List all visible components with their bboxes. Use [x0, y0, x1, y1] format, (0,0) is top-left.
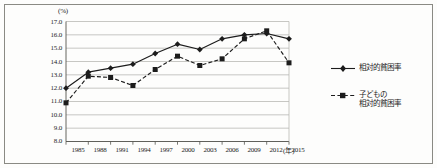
- data-point-marker: [86, 74, 91, 79]
- data-point-marker: [175, 41, 181, 47]
- data-point-marker: [219, 36, 225, 42]
- data-point-marker: [108, 75, 113, 80]
- data-point-marker: [197, 63, 202, 68]
- data-point-marker: [64, 100, 69, 105]
- data-point-marker: [242, 36, 247, 41]
- data-point-marker: [130, 83, 135, 88]
- legend-entry-relative-poverty-rate: 相対的貧困率: [330, 63, 401, 73]
- legend-marker-diamond-solid-icon: [330, 64, 356, 73]
- legend-label-2-line2: 相対的貧困率: [359, 99, 401, 108]
- x-tick-marks: [66, 142, 289, 145]
- data-point-marker: [264, 28, 269, 33]
- plot-wrapper: (%) (年) 17.0 16.0 15.0 14.0 13.0 12.0 11…: [0, 0, 437, 168]
- data-point-marker: [286, 36, 292, 42]
- chart-plot-area: [0, 0, 437, 168]
- legend-label-2-line1: 子どもの: [359, 90, 401, 99]
- figure-container: (%) (年) 17.0 16.0 15.0 14.0 13.0 12.0 11…: [0, 0, 437, 168]
- data-point-marker: [130, 61, 136, 67]
- data-point-marker: [108, 65, 114, 71]
- legend-label-1: 相対的貧困率: [359, 63, 401, 72]
- data-point-marker: [197, 47, 203, 53]
- data-series-group: [63, 28, 292, 105]
- data-point-marker: [287, 60, 292, 65]
- data-point-marker: [153, 67, 158, 72]
- gridlines: [66, 22, 289, 142]
- legend-marker-square-dashed-icon: [330, 91, 356, 100]
- data-point-marker: [175, 54, 180, 59]
- axis-lines: [66, 22, 289, 142]
- data-point-marker: [152, 51, 158, 57]
- data-point-marker: [220, 56, 225, 61]
- legend-entry-child-relative-poverty-rate: 子どもの相対的貧困率: [330, 90, 401, 108]
